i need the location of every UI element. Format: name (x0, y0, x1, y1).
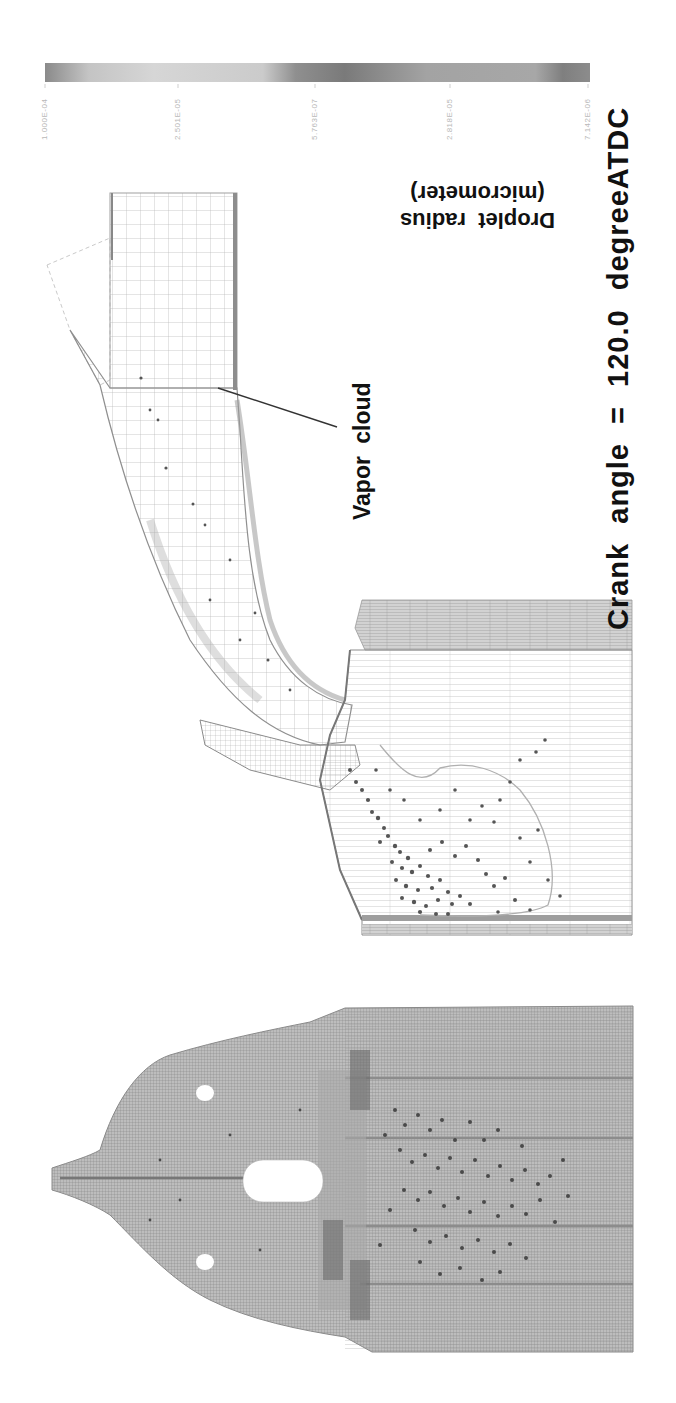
colorbar-ticks (45, 84, 588, 88)
colorbar-title: Droplet radius (micrometer) (375, 180, 580, 238)
colorbar-tick-label-4: 7.142E-06 (583, 99, 592, 140)
valve-hole-lower (196, 1254, 214, 1270)
cylinder-side-mesh (320, 600, 632, 935)
valve-hole-upper (196, 1085, 214, 1101)
vapor-cloud-label: Vapor cloud (349, 382, 376, 520)
intake-port-mesh (47, 193, 360, 790)
cylinder-top-view-mesh (52, 1006, 633, 1352)
colorbar-tick-label-2: 5.763E-07 (310, 99, 319, 140)
colorbar-title-line-2: (micrometer) (375, 180, 580, 207)
colorbar-tick-label-3: 2.818E-05 (445, 99, 454, 140)
colorbar-tick-label-1: 2.501E-05 (173, 99, 182, 140)
colorbar (45, 63, 590, 82)
colorbar-tick-label-0: 1.000E-04 (40, 99, 49, 140)
crank-angle-caption: Crank angle = 120.0 degreeATDC (602, 107, 635, 630)
injector-hole (243, 1160, 323, 1202)
colorbar-title-line-1: Droplet radius (375, 207, 580, 234)
